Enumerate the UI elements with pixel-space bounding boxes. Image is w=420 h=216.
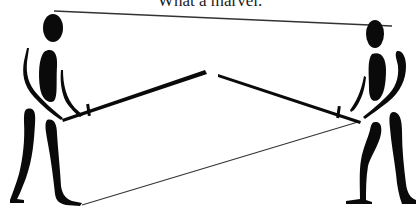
right-torso [369, 53, 386, 101]
left-head [43, 14, 63, 42]
right-back-leg [389, 112, 416, 204]
left-back-leg [45, 120, 82, 206]
right-front-leg [346, 122, 381, 204]
right-stick [218, 74, 361, 124]
foot-connector-line [82, 122, 358, 205]
left-front-arm [61, 70, 83, 117]
left-torso [39, 50, 57, 102]
drawing [0, 0, 420, 216]
right-figure [218, 20, 416, 204]
left-stick [62, 70, 207, 122]
illustration: What a marvel. [0, 0, 420, 216]
left-front-leg [10, 109, 35, 203]
head-connector-line [54, 11, 392, 26]
right-head [366, 20, 384, 48]
left-figure [10, 14, 207, 206]
right-front-arm [350, 76, 366, 112]
